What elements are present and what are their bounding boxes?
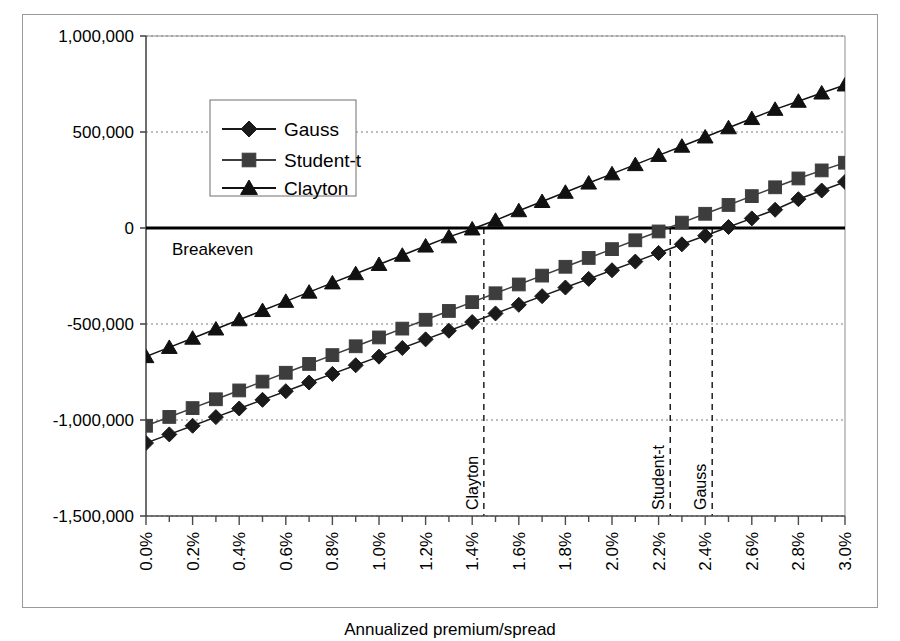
x-tick-label: 0.4% [230, 532, 249, 571]
data-point-square [536, 269, 549, 282]
x-axis-tick-labels: 0.0%0.2%0.4%0.6%0.8%1.0%1.2%1.4%1.6%1.8%… [137, 532, 855, 571]
chart-legend[interactable]: GaussStudent-tClayton [210, 100, 362, 199]
x-tick-label: 0.6% [277, 532, 296, 571]
x-tick-label: 3.0% [836, 532, 855, 571]
data-point-square [839, 156, 852, 169]
y-tick-label: -500,000 [67, 315, 134, 334]
data-point-square [745, 190, 758, 203]
data-point-square [326, 349, 339, 362]
data-point-square [606, 243, 619, 256]
data-point-square [256, 375, 269, 388]
data-point-square [559, 260, 572, 273]
data-point-square [303, 358, 316, 371]
y-tick-label: -1,500,000 [53, 507, 134, 526]
data-point-square [233, 384, 246, 397]
data-point-square [699, 207, 712, 220]
data-point-square [489, 287, 502, 300]
data-point-square [815, 164, 828, 177]
y-tick-label: 1,000,000 [58, 27, 134, 46]
x-tick-label: 1.2% [417, 532, 436, 571]
x-tick-label: 2.4% [696, 532, 715, 571]
data-point-square [769, 181, 782, 194]
data-point-square [419, 313, 432, 326]
x-tick-label: 1.0% [370, 532, 389, 571]
y-tick-label: 0 [125, 219, 134, 238]
legend-label-gauss: Gauss [284, 119, 339, 140]
x-tick-label: 0.2% [184, 532, 203, 571]
x-axis-ticks [146, 516, 845, 525]
data-point-square [186, 402, 199, 415]
legend-label-student-t: Student-t [284, 150, 362, 171]
data-point-square [676, 216, 689, 229]
data-point-square [210, 393, 223, 406]
legend-marker-square [242, 153, 256, 167]
breakeven-marker-label: Clayton [464, 456, 481, 510]
x-tick-label: 0.8% [323, 532, 342, 571]
chart-canvas: 1,000,000500,0000-500,000-1,000,000-1,50… [0, 0, 900, 641]
breakeven-marker-label: Student-t [650, 445, 667, 510]
data-point-square [163, 411, 176, 424]
y-axis-ticks [140, 36, 146, 516]
y-axis-tick-labels: 1,000,000500,0000-500,000-1,000,000-1,50… [53, 27, 134, 526]
data-point-square [582, 252, 595, 265]
x-tick-label: 2.6% [743, 532, 762, 571]
data-point-square [373, 331, 386, 344]
x-tick-label: 2.8% [789, 532, 808, 571]
data-point-square [792, 172, 805, 185]
data-point-square [629, 234, 642, 247]
breakeven-marker-label: Gauss [692, 464, 709, 510]
data-point-square [396, 322, 409, 335]
data-point-square [140, 419, 153, 432]
x-axis-title: Annualized premium/spread [344, 620, 556, 639]
data-point-square [722, 199, 735, 212]
y-tick-label: -1,000,000 [53, 411, 134, 430]
x-tick-label: 2.2% [650, 532, 669, 571]
x-tick-label: 1.8% [556, 532, 575, 571]
data-point-square [512, 278, 525, 291]
x-tick-label: 2.0% [603, 532, 622, 571]
x-tick-label: 1.4% [463, 532, 482, 571]
data-point-square [466, 296, 479, 309]
data-point-square [279, 366, 292, 379]
legend-label-clayton: Clayton [284, 178, 348, 199]
x-tick-label: 1.6% [510, 532, 529, 571]
data-point-square [443, 305, 456, 318]
y-tick-label: 500,000 [73, 123, 134, 142]
x-tick-label: 0.0% [137, 532, 156, 571]
data-point-square [652, 225, 665, 238]
breakeven-annotation-label: Breakeven [172, 240, 253, 259]
data-point-square [349, 340, 362, 353]
